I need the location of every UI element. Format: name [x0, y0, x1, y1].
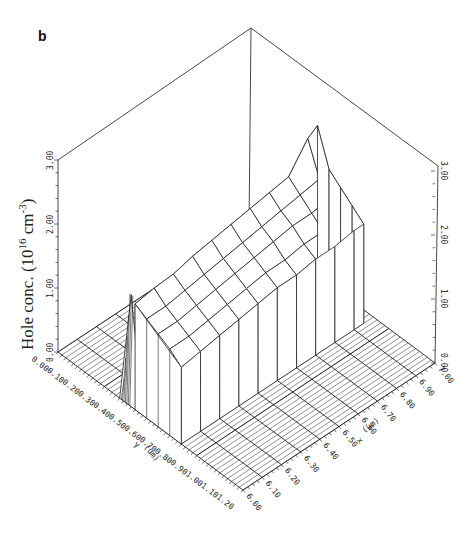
z-tick-label-left: 2.00: [46, 215, 55, 234]
x-tick-label: 6.20: [283, 466, 302, 487]
x-tick-label: 6.10: [264, 479, 283, 500]
x-tick-label: 6.50: [340, 428, 359, 449]
z-axis-title: Hole conc. (1016 cm-3): [16, 199, 37, 350]
x-tick-label: 7.00: [436, 365, 455, 386]
x-tick-label: 6.80: [398, 390, 417, 411]
y-axis-title: y: [132, 440, 141, 450]
surface-plot: 0.001.002.003.000.001.002.003.000.000.10…: [0, 0, 472, 533]
z-tick-label-right: 2.00: [439, 225, 448, 244]
x-tick-label: 6.70: [379, 403, 398, 424]
z-tick-label-left: 1.00: [46, 279, 55, 298]
z-tick-label-right: 1.00: [439, 289, 448, 308]
y-tick-label: 1.20: [215, 492, 236, 511]
x-tick-label: 6.30: [302, 454, 321, 475]
x-tick-label: 6.40: [321, 441, 340, 462]
x-tick-label: 6.00: [244, 492, 263, 513]
z-tick-label-left: 0.00: [46, 343, 55, 362]
z-tick-label-left: 3.00: [46, 151, 55, 170]
x-tick-label: 6.90: [417, 377, 436, 398]
z-tick-label-right: 3.00: [439, 161, 448, 180]
